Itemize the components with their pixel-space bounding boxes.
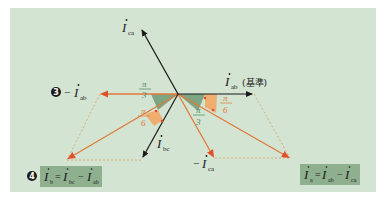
svg-text:π: π bbox=[142, 79, 147, 89]
svg-text:−: − bbox=[78, 171, 84, 182]
svg-text:6: 6 bbox=[223, 105, 228, 115]
svg-text:4: 4 bbox=[29, 172, 35, 181]
svg-text:=: = bbox=[55, 171, 61, 182]
svg-text:(基準): (基準) bbox=[242, 77, 267, 88]
svg-text:−: − bbox=[337, 169, 343, 180]
svg-text:−: − bbox=[64, 86, 70, 98]
svg-text:I: I bbox=[156, 136, 162, 151]
svg-text:π: π bbox=[223, 93, 228, 103]
svg-text:I: I bbox=[303, 167, 309, 182]
svg-text:I: I bbox=[121, 20, 127, 35]
svg-text:ab: ab bbox=[328, 177, 334, 183]
svg-text:I: I bbox=[344, 167, 350, 182]
svg-text:=: = bbox=[315, 169, 321, 180]
svg-text:−: − bbox=[193, 157, 199, 169]
svg-text:I: I bbox=[224, 74, 230, 89]
formula-i-a: I a = I ab − I ca bbox=[300, 164, 360, 185]
svg-text:ab: ab bbox=[231, 83, 238, 91]
svg-text:ab: ab bbox=[93, 179, 99, 185]
svg-text:I: I bbox=[73, 85, 79, 100]
svg-text:ca: ca bbox=[208, 165, 215, 173]
svg-text:I: I bbox=[43, 169, 49, 184]
phasor-diagram: I ca I ab (基準) 3 − I ab I bc − I ca π 3 … bbox=[0, 0, 384, 199]
svg-text:a: a bbox=[310, 177, 313, 183]
svg-text:3: 3 bbox=[53, 88, 59, 97]
svg-text:ca: ca bbox=[128, 29, 135, 37]
svg-text:b: b bbox=[50, 179, 53, 185]
svg-text:ca: ca bbox=[351, 177, 357, 183]
svg-text:π: π bbox=[196, 105, 201, 115]
svg-text:6: 6 bbox=[141, 118, 146, 128]
svg-text:3: 3 bbox=[141, 90, 147, 100]
svg-text:ab: ab bbox=[80, 94, 87, 102]
svg-text:bc: bc bbox=[163, 145, 170, 153]
svg-text:I: I bbox=[321, 167, 327, 182]
svg-text:bc: bc bbox=[69, 179, 75, 185]
svg-text:I: I bbox=[86, 169, 92, 184]
svg-text:I: I bbox=[62, 169, 68, 184]
svg-text:π: π bbox=[141, 106, 146, 116]
svg-text:I: I bbox=[201, 156, 207, 171]
svg-text:3: 3 bbox=[195, 117, 201, 127]
